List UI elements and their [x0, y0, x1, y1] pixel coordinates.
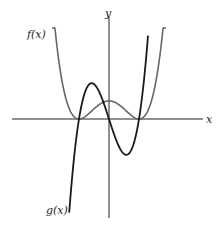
curve-f-label: f(x): [26, 28, 46, 41]
function-plot: x y f(x) g(x): [0, 0, 223, 226]
x-axis-label: x: [206, 113, 213, 126]
curve-g: [69, 36, 149, 212]
curve-g-label: g(x): [46, 204, 68, 217]
y-axis-label: y: [104, 7, 112, 20]
